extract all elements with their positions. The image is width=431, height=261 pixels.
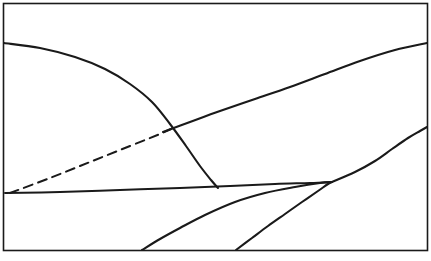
figure-container [0,0,431,261]
line-diagram-svg [0,0,431,261]
figure-background [0,0,431,261]
